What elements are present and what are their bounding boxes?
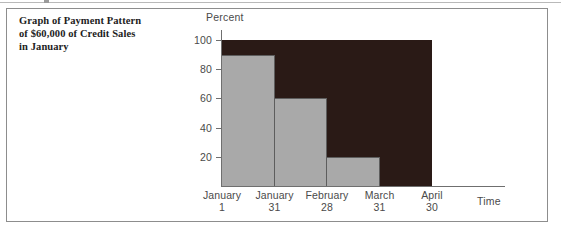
y-tick-label-40-text: 40: [186, 122, 212, 134]
y-tick-label-100: 100: [186, 34, 212, 46]
bar-january-1: [222, 55, 275, 186]
plot-area: [222, 40, 432, 186]
payment-pattern-chart: Percent Time 100 80 60 40 20 January 1 J…: [0, 0, 561, 242]
y-tick-label-20-text: 20: [186, 151, 212, 163]
x-tick-day-4: 30: [392, 201, 472, 213]
y-tick-label-80-text: 80: [186, 63, 212, 75]
x-axis-line: [222, 186, 505, 187]
y-tick-label-100-text: 100: [186, 34, 212, 46]
bar-january-31: [275, 98, 328, 186]
y-tick-label-60-text: 60: [186, 92, 212, 104]
y-axis-title: Percent: [206, 11, 244, 23]
x-tick-label-april-30: April 30: [392, 189, 472, 213]
y-tick-label-40: 40: [186, 122, 212, 134]
y-tick-label-60: 60: [186, 92, 212, 104]
y-tick-label-20: 20: [186, 151, 212, 163]
x-tick-month-4: April: [392, 189, 472, 201]
x-axis-title: Time: [477, 195, 501, 207]
y-tick-label-80: 80: [186, 63, 212, 75]
bar-february-28: [327, 157, 380, 186]
